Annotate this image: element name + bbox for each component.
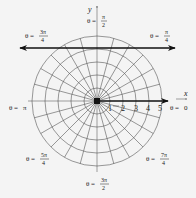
svg-text:4: 4 (42, 160, 45, 166)
svg-text:π: π (23, 104, 27, 112)
svg-text:2: 2 (102, 185, 105, 191)
tick-3: 3 (134, 104, 138, 113)
label-theta-3pi-2: θ = 3π 2 (86, 177, 109, 191)
svg-text:4: 4 (165, 37, 168, 43)
grid-ray (97, 101, 160, 118)
label-theta-pi-4: θ = π 4 (150, 29, 170, 43)
grid-ray (97, 84, 160, 101)
svg-text:π: π (102, 14, 105, 20)
svg-text:θ =: θ = (150, 32, 159, 40)
svg-text:0: 0 (184, 104, 188, 112)
grid-ray (51, 55, 97, 101)
grid-ray (34, 101, 97, 118)
label-theta-3pi-4: θ = 3π 4 (25, 29, 48, 43)
x-axis-label: x (183, 89, 188, 98)
svg-text:θ =: θ = (146, 155, 155, 163)
tick-1: 1 (108, 104, 112, 113)
grid-ray (51, 101, 97, 147)
grid-ray (41, 69, 97, 102)
grid-ray (80, 101, 97, 164)
svg-text:7π: 7π (161, 152, 167, 158)
svg-text:2: 2 (102, 22, 105, 28)
radial-ticks: 1 2 3 4 5 (108, 104, 162, 113)
grid-ray (97, 69, 153, 102)
svg-text:4: 4 (162, 160, 165, 166)
y-axis-label: y (87, 5, 92, 14)
svg-text:θ =: θ = (87, 17, 96, 25)
svg-text:θ =: θ = (9, 104, 18, 112)
tick-5: 5 (158, 104, 162, 113)
grid-ray (97, 101, 153, 134)
grid-ray (97, 45, 130, 101)
grid-ray (34, 84, 97, 101)
polar-diagram: 1 2 3 4 5 y x θ = π 2 θ = 3π 4 θ = π 4 (0, 0, 196, 198)
tick-4: 4 (146, 104, 150, 113)
svg-text:3π: 3π (40, 29, 46, 35)
grid-ray (65, 101, 98, 157)
tick-2: 2 (121, 104, 125, 113)
label-theta-pi: θ = π (9, 104, 27, 112)
svg-text:θ =: θ = (86, 180, 95, 188)
svg-text:θ =: θ = (26, 155, 35, 163)
svg-text:4: 4 (41, 37, 44, 43)
grid-ray (41, 101, 97, 134)
svg-text:θ =: θ = (25, 32, 34, 40)
label-theta-0: θ = 0 (170, 104, 188, 112)
origin-point (94, 98, 100, 104)
svg-text:3π: 3π (101, 177, 107, 183)
svg-text:θ =: θ = (170, 104, 179, 112)
label-theta-5pi-4: θ = 5π 4 (26, 152, 49, 166)
grid-ray (97, 55, 143, 101)
label-theta-7pi-4: θ = 7π 4 (146, 152, 169, 166)
svg-text:5π: 5π (41, 152, 47, 158)
grid-ray (65, 45, 98, 101)
svg-text:π: π (165, 29, 168, 35)
